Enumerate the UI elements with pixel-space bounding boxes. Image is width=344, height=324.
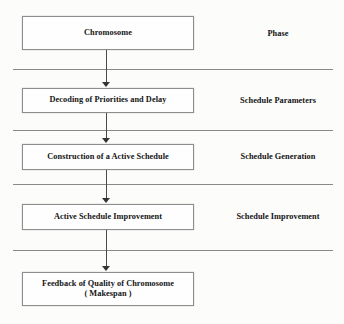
phase-label-schedule-parameters: Schedule Parameters: [214, 96, 342, 105]
node-active-schedule-improvement[interactable]: Active Schedule Improvement: [22, 204, 194, 230]
connector-decoding-to-construction: [106, 113, 107, 139]
connector-improvement-to-feedback: [106, 230, 107, 267]
connector-chromosome-to-decoding: [106, 50, 107, 83]
node-feedback-label-line1: Feedback of Quality of Chromosome: [42, 279, 174, 290]
node-feedback-label-line2: ( Makespan ): [84, 289, 131, 300]
arrowhead-to-construction: [102, 138, 110, 143]
flowchart-diagram: Chromosome Decoding of Priorities and De…: [0, 0, 344, 324]
node-improvement-label: Active Schedule Improvement: [54, 212, 162, 223]
arrowhead-to-improvement: [102, 198, 110, 203]
node-feedback-of-quality-of-chromosome[interactable]: Feedback of Quality of Chromosome ( Make…: [22, 272, 194, 306]
phase-label-phase: Phase: [214, 29, 342, 38]
node-construction-label: Construction of a Active Schedule: [47, 152, 169, 163]
phase-separator-2: [13, 130, 333, 131]
node-construction-of-active-schedule[interactable]: Construction of a Active Schedule: [22, 144, 194, 170]
node-chromosome[interactable]: Chromosome: [22, 16, 194, 50]
node-chromosome-label: Chromosome: [84, 28, 132, 39]
arrowhead-to-decoding: [102, 82, 110, 87]
phase-separator-3: [13, 184, 333, 185]
connector-construction-to-improvement: [106, 170, 107, 199]
phase-label-schedule-generation: Schedule Generation: [214, 152, 342, 161]
phase-label-schedule-improvement: Schedule Improvement: [214, 212, 342, 221]
node-decoding-label: Decoding of Priorities and Delay: [50, 95, 167, 106]
phase-separator-1: [13, 69, 333, 70]
arrowhead-to-feedback: [102, 266, 110, 271]
node-decoding-of-priorities-and-delay[interactable]: Decoding of Priorities and Delay: [22, 88, 194, 113]
phase-separator-4: [13, 250, 333, 251]
